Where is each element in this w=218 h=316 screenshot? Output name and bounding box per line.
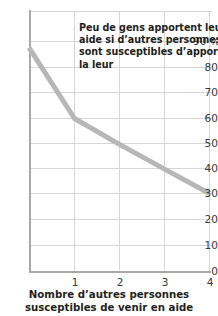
y-tick-label-0: 0 <box>191 266 218 277</box>
y-tick-label-10: 10 <box>191 240 218 251</box>
chart-annotation-line-4: la leur <box>79 59 207 71</box>
x-tick-label-3: 3 <box>157 277 173 288</box>
x-axis-title-line-2: susceptibles de venir en aide <box>0 301 218 314</box>
y-tick-label-20: 20 <box>191 214 218 225</box>
y-tick-label-40: 40 <box>191 163 218 174</box>
chart-container: 90 % 80 70 60 50 40 30 20 10 0 1 2 3 4 P… <box>0 0 218 316</box>
x-tick-label-1: 1 <box>67 277 83 288</box>
x-tick-label-2: 2 <box>112 277 128 288</box>
y-tick-label-70: 70 <box>191 87 218 98</box>
x-axis-title-line-1: Nombre d’autres personnes <box>0 288 218 301</box>
y-tick-label-30: 30 <box>191 188 218 199</box>
y-tick-label-50: 50 <box>191 138 218 149</box>
x-tick-label-4: 4 <box>202 277 218 288</box>
chart-annotation-line-1: Peu de gens apportent leur <box>79 22 207 34</box>
chart-annotation: Peu de gens apportent leur aide si d’aut… <box>79 22 207 71</box>
chart-annotation-line-3: sont susceptibles d’apporter <box>79 46 207 58</box>
chart-annotation-line-2: aide si d’autres personnes <box>79 34 207 46</box>
x-axis-title: Nombre d’autres personnes susceptibles d… <box>0 288 218 314</box>
y-tick-label-60: 60 <box>191 113 218 124</box>
